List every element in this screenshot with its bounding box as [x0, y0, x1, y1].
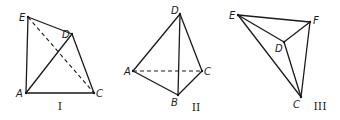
edge-FC — [301, 22, 310, 97]
geometry-figures: EDACI DACBII EFDCIII — [0, 0, 340, 120]
figure-II: DACBII — [123, 5, 211, 114]
edge-EC — [238, 15, 301, 97]
edge-AB — [133, 71, 178, 95]
vertex-point-A — [132, 70, 134, 72]
edge-BC — [178, 71, 202, 95]
figure-III: EFDCIII — [229, 10, 327, 113]
vertex-label-D: D — [62, 29, 70, 40]
dashed-edge-EC — [28, 17, 94, 93]
edge-AD — [26, 34, 72, 93]
vertex-point-C — [300, 96, 302, 98]
vertex-point-E — [27, 16, 29, 18]
vertex-label-A: A — [15, 88, 23, 99]
vertex-point-C — [93, 92, 95, 94]
edge-DA — [133, 14, 180, 71]
edge-DC — [72, 34, 94, 93]
vertex-point-D — [283, 41, 285, 43]
vertex-label-B: B — [171, 97, 178, 108]
vertex-label-D: D — [171, 5, 179, 16]
vertex-point-A — [25, 92, 27, 94]
vertex-point-D — [71, 33, 73, 35]
vertex-point-C — [201, 70, 203, 72]
vertex-point-F — [309, 21, 311, 23]
figure-label: II — [192, 101, 201, 114]
vertex-label-F: F — [313, 15, 319, 26]
edge-DF — [284, 22, 310, 42]
edge-DC — [284, 42, 301, 97]
vertex-point-D — [179, 13, 181, 15]
edge-EA — [26, 17, 28, 93]
vertex-label-D: D — [275, 43, 283, 54]
figure-I: EDACI — [15, 12, 103, 113]
edge-DB — [178, 14, 180, 95]
edge-DC — [180, 14, 202, 71]
vertex-label-C: C — [96, 88, 103, 99]
vertex-point-E — [237, 14, 239, 16]
figure-label: I — [58, 100, 62, 113]
vertex-label-C: C — [204, 66, 211, 77]
vertex-label-E: E — [19, 12, 26, 23]
vertex-point-B — [177, 94, 179, 96]
vertex-label-E: E — [229, 10, 236, 21]
vertex-label-C: C — [293, 99, 300, 110]
figure-label: III — [313, 100, 326, 113]
vertex-label-A: A — [123, 66, 131, 77]
